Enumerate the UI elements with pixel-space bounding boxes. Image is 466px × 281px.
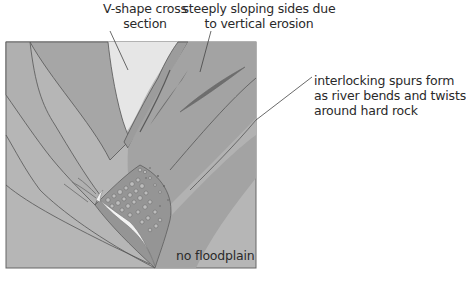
label-spurs-line3: around hard rock [314,103,414,118]
label-steep-sides-line1: steeply sloping sides due [164,1,354,16]
label-spurs-line2: as river bends and twists [314,88,414,103]
label-spurs-line1: interlocking spurs form [314,73,414,88]
label-steep-sides: steeply sloping sides due to vertical er… [164,1,354,31]
label-steep-sides-line2: to vertical erosion [164,16,354,31]
spurs-leader [256,77,312,120]
label-no-floodplain: no floodplain [176,248,255,263]
label-interlocking-spurs: interlocking spurs form as river bends a… [314,73,414,118]
